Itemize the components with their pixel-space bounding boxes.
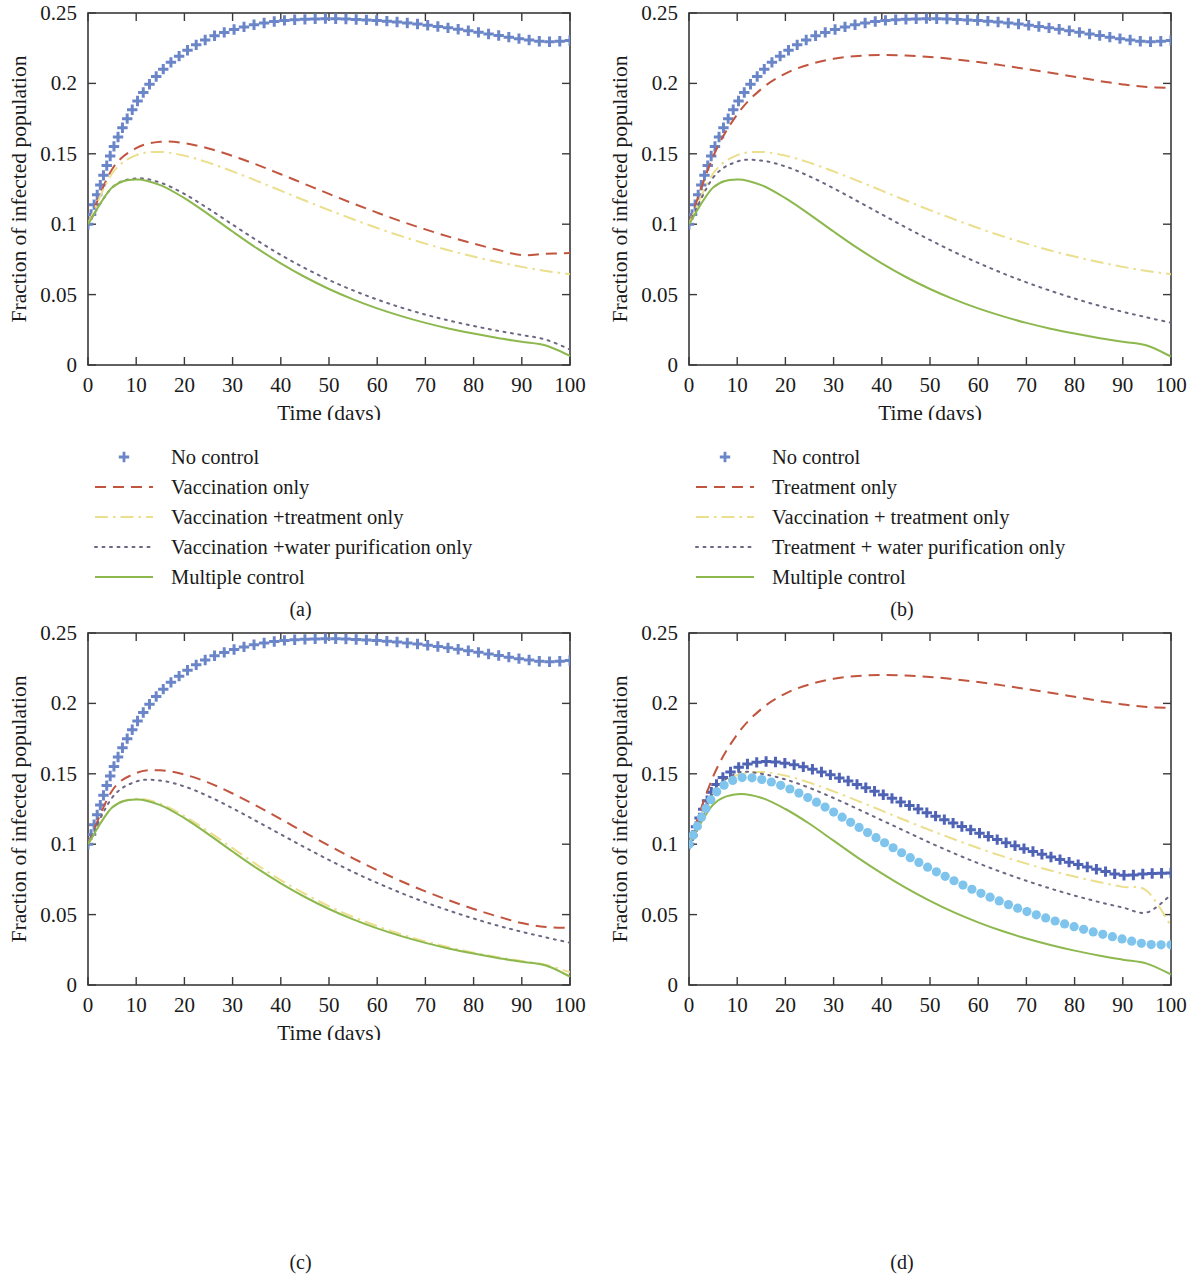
panel-c: 010203040506070809010000.050.10.150.20.2… (0, 620, 601, 1281)
x-tick-label: 0 (684, 373, 695, 397)
y-tick-label: 0.25 (40, 1, 77, 25)
axes-box (689, 13, 1171, 365)
solid-line-icon (85, 562, 163, 592)
y-tick-label: 0.05 (40, 283, 77, 307)
y-tick-label: 0 (668, 353, 679, 377)
axes-box (88, 633, 570, 985)
legend-item[interactable]: No control (85, 442, 472, 472)
x-tick-label: 80 (1064, 993, 1085, 1017)
x-tick-label: 70 (1016, 993, 1037, 1017)
y-axis-title: Fraction of infected population (7, 675, 31, 942)
series-line (88, 152, 570, 274)
x-tick-label: 40 (270, 373, 291, 397)
y-tick-label: 0.05 (40, 903, 77, 927)
x-axis-title: Time (days) (878, 401, 982, 420)
x-tick-label: 100 (1155, 993, 1187, 1017)
x-tick-label: 90 (1112, 373, 1133, 397)
x-tick-label: 40 (871, 373, 892, 397)
series-markers (83, 633, 575, 849)
legend-item[interactable]: Vaccination + treatment only (686, 502, 1065, 532)
series-line (88, 179, 570, 355)
x-tick-label: 100 (554, 993, 586, 1017)
series-line (689, 55, 1171, 224)
y-tick-label: 0 (668, 973, 679, 997)
x-tick-label: 100 (554, 373, 586, 397)
legend-item[interactable]: Vaccination +water purification only (85, 532, 472, 562)
dashdot-line-icon (686, 502, 764, 532)
legend-item-label: No control (764, 447, 860, 468)
x-tick-label: 60 (367, 373, 388, 397)
y-tick-label: 0.2 (51, 691, 77, 715)
legend-item[interactable]: No control (686, 442, 1065, 472)
x-tick-label: 50 (319, 373, 340, 397)
legend-item[interactable]: Vaccination only (85, 472, 472, 502)
y-tick-label: 0.15 (641, 142, 678, 166)
x-tick-label: 50 (920, 993, 941, 1017)
x-tick-label: 0 (83, 993, 94, 1017)
x-tick-label: 80 (1064, 373, 1085, 397)
y-tick-label: 0.25 (641, 1, 678, 25)
x-tick-label: 100 (1155, 373, 1187, 397)
y-axis-title: Fraction of infected population (608, 675, 632, 942)
panel-caption-c: (c) (0, 1251, 601, 1274)
legend-item-label: No control (163, 447, 259, 468)
solid-line-icon (686, 562, 764, 592)
x-tick-label: 80 (463, 373, 484, 397)
x-tick-label: 10 (126, 373, 147, 397)
y-tick-label: 0.2 (51, 71, 77, 95)
legend-item[interactable]: Multiple control (85, 562, 472, 592)
dashdot-line-icon (85, 502, 163, 532)
x-tick-label: 20 (775, 373, 796, 397)
panel-caption-a: (a) (0, 598, 601, 621)
x-tick-label: 90 (511, 373, 532, 397)
legend-item[interactable]: Treatment + water purification only (686, 532, 1065, 562)
y-tick-label: 0.2 (652, 71, 678, 95)
chart-d: 010203040506070809010000.050.10.150.20.2… (601, 620, 1202, 1020)
x-tick-label: 10 (727, 373, 748, 397)
x-tick-label: 60 (367, 993, 388, 1017)
x-tick-label: 30 (823, 993, 844, 1017)
legend-item-label: Vaccination only (163, 477, 309, 498)
series-markers (684, 13, 1176, 229)
series-line (689, 152, 1171, 274)
x-tick-label: 0 (684, 993, 695, 1017)
panel-caption-d: (d) (601, 1251, 1203, 1274)
series-markers (83, 13, 575, 229)
panel-d: 010203040506070809010000.050.10.150.20.2… (601, 620, 1203, 1281)
plus-marker-icon (686, 442, 764, 472)
legend-item-label: Multiple control (764, 567, 906, 588)
chart-a: 010203040506070809010000.050.10.150.20.2… (0, 0, 601, 420)
y-tick-label: 0.1 (652, 212, 678, 236)
legend-item-label: Treatment only (764, 477, 897, 498)
x-tick-label: 60 (968, 373, 989, 397)
plus-marker-icon (85, 442, 163, 472)
y-tick-label: 0.1 (51, 212, 77, 236)
series-line (88, 799, 570, 976)
chart-b: 010203040506070809010000.050.10.150.20.2… (601, 0, 1202, 420)
y-axis-title: Fraction of infected population (7, 55, 31, 322)
panel-a: 010203040506070809010000.050.10.150.20.2… (0, 0, 601, 620)
x-tick-label: 90 (1112, 993, 1133, 1017)
x-tick-label: 0 (83, 373, 94, 397)
x-axis-title: Time (days) (277, 1021, 381, 1040)
y-tick-label: 0.1 (51, 832, 77, 856)
series-line (689, 794, 1171, 975)
legend-item-label: Multiple control (163, 567, 305, 588)
x-tick-label: 10 (126, 993, 147, 1017)
x-tick-label: 80 (463, 993, 484, 1017)
y-tick-label: 0.1 (652, 832, 678, 856)
y-tick-label: 0.15 (40, 762, 77, 786)
panel-b: 010203040506070809010000.050.10.150.20.2… (601, 0, 1203, 620)
chart-c: 010203040506070809010000.050.10.150.20.2… (0, 620, 601, 1040)
x-axis-title: Time (days) (277, 401, 381, 420)
legend-item[interactable]: Multiple control (686, 562, 1065, 592)
x-tick-label: 60 (968, 993, 989, 1017)
series-line (689, 675, 1171, 844)
legend-item[interactable]: Treatment only (686, 472, 1065, 502)
x-tick-label: 20 (174, 993, 195, 1017)
x-tick-label: 50 (319, 993, 340, 1017)
series-line (88, 770, 570, 928)
x-tick-label: 40 (270, 993, 291, 1017)
x-tick-label: 70 (415, 373, 436, 397)
legend-item[interactable]: Vaccination +treatment only (85, 502, 472, 532)
